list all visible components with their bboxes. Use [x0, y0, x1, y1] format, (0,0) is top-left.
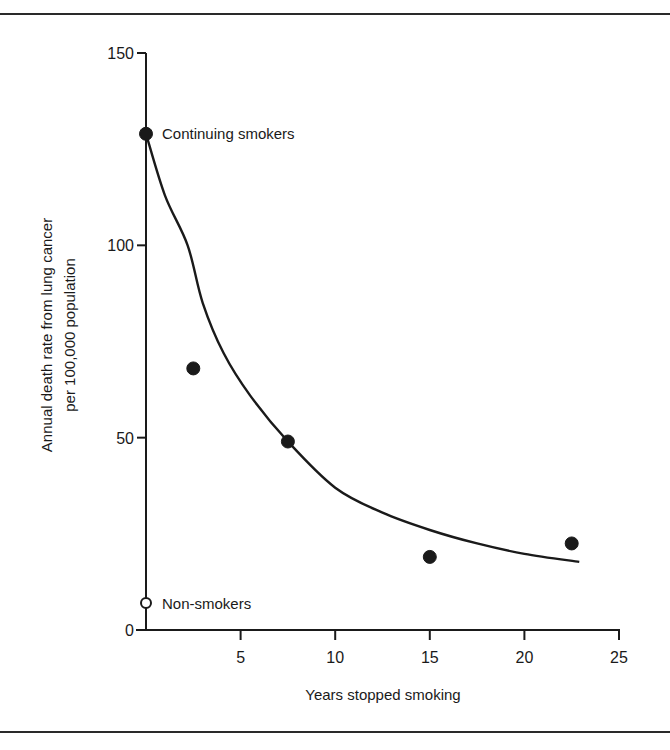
- y-axis-label-line1: Annual death rate from lung cancer: [38, 218, 55, 452]
- y-tick-label: 150: [107, 45, 134, 62]
- x-tick-label: 20: [516, 649, 534, 666]
- fitted-curve: [146, 134, 579, 562]
- data-point: [423, 550, 436, 563]
- data-point: [187, 362, 200, 375]
- y-tick-label: 50: [116, 430, 134, 447]
- x-axis-label: Years stopped smoking: [305, 686, 460, 703]
- annotation-continuing-smokers: Continuing smokers: [162, 125, 295, 142]
- y-tick-label: 0: [125, 622, 134, 639]
- y-axis-label-line2: per 100,000 population: [61, 258, 78, 411]
- chart: 050100150510152025 Continuing smokers No…: [0, 0, 670, 750]
- data-point: [281, 435, 294, 448]
- data-point: [565, 537, 578, 550]
- data-point: [140, 127, 153, 140]
- data-points: [140, 127, 579, 608]
- non-smokers-point: [141, 598, 151, 608]
- x-tick-label: 5: [236, 649, 245, 666]
- annotation-non-smokers: Non-smokers: [162, 595, 251, 612]
- fitted-curve-path: [146, 134, 579, 562]
- x-tick-label: 10: [326, 649, 344, 666]
- x-tick-label: 15: [421, 649, 439, 666]
- x-tick-label: 25: [610, 649, 628, 666]
- y-tick-label: 100: [107, 237, 134, 254]
